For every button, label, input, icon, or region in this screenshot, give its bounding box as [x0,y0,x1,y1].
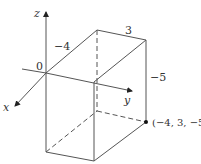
box-bottom-left-edge [46,152,94,161]
box-hidden-bottom-back-edge [97,111,146,122]
dimension-y-label: 3 [125,24,132,37]
x-axis [15,73,46,106]
box-bottom-front-edge [94,122,146,161]
point-marker [144,120,148,124]
box-hidden-bottom-diagonal [46,111,97,152]
origin-label: 0 [36,60,43,73]
y-axis-label: y [123,94,131,107]
box-top-back-edge [97,30,146,40]
z-axis-label: z [33,7,40,20]
coordinate-box-diagram: z x y 0 −4 3 −5 (−4, 3, −5) [0,0,201,164]
y-axis [46,73,132,91]
dimension-x-label: −4 [54,40,70,53]
point-label: (−4, 3, −5) [152,117,201,128]
dimension-z-label: −5 [150,71,166,84]
box-top-right-edge [94,40,146,82]
x-axis-label: x [3,101,10,114]
